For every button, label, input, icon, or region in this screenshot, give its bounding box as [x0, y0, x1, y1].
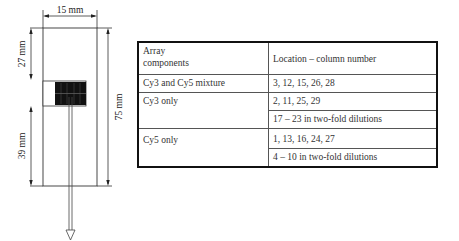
- array-block: [43, 81, 86, 106]
- location-cell: 1, 13, 16, 24, 27: [269, 129, 438, 149]
- header-line-2: components: [143, 58, 189, 68]
- pointer-arrow-icon: [66, 97, 75, 240]
- array-components-table: Array components Location – column numbe…: [137, 41, 438, 168]
- bottom-offset-label: 39 mm: [17, 132, 27, 159]
- bottom-offset-dimension: 39 mm: [17, 106, 33, 186]
- component-cell: Cy5 only: [138, 129, 269, 168]
- component-cell: Cy3 and Cy5 mixture: [138, 75, 269, 93]
- header-array-components: Array components: [138, 42, 269, 75]
- top-offset-dimension: 27 mm: [17, 28, 33, 80]
- width-label: 15 mm: [57, 5, 84, 15]
- table-header-row: Array components Location – column numbe…: [138, 42, 437, 75]
- top-offset-label: 27 mm: [17, 40, 27, 67]
- header-location: Location – column number: [269, 42, 438, 75]
- table-row: Cy5 only 1, 13, 16, 24, 27: [138, 129, 437, 149]
- table-row: Cy3 and Cy5 mixture 3, 12, 15, 26, 28: [138, 75, 437, 93]
- slide-diagram: 15 mm 27 mm 39 mm 75 mm: [0, 0, 130, 241]
- length-label: 75 mm: [114, 93, 124, 120]
- width-dimension: 15 mm: [43, 5, 97, 28]
- header-line-1: Array: [143, 46, 165, 56]
- length-dimension: 75 mm: [106, 28, 124, 186]
- location-cell: 2, 11, 25, 29: [269, 93, 438, 111]
- location-cell: 3, 12, 15, 26, 28: [269, 75, 438, 93]
- table-row: Cy3 only 2, 11, 25, 29: [138, 93, 437, 111]
- location-cell: 17 – 23 in two-fold dilutions: [269, 111, 438, 129]
- location-cell: 4 – 10 in two-fold dilutions: [269, 149, 438, 168]
- slide-outline: [43, 28, 97, 186]
- component-cell: Cy3 only: [138, 93, 269, 129]
